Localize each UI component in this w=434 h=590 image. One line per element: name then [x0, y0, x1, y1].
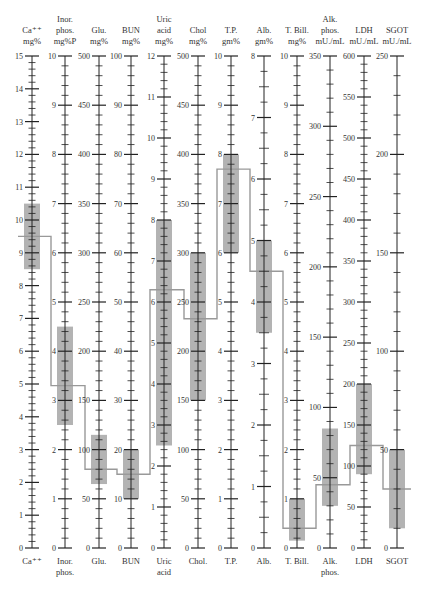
- tick-label: 100: [343, 462, 355, 471]
- axis-header-phos: mg%P: [54, 36, 77, 46]
- tick-label: 0: [384, 544, 388, 553]
- tick-label: 400: [78, 150, 90, 159]
- tick-label: 3: [19, 446, 23, 455]
- axis-header-chol: mg%: [189, 36, 207, 46]
- axis-header-alk: Alk.: [323, 14, 338, 24]
- axis-header-ldh: LDH: [355, 25, 372, 35]
- tick-label: 9: [151, 175, 155, 184]
- tick-label: 400: [343, 216, 355, 225]
- tick-label: 3: [52, 396, 56, 405]
- tick-label: 100: [376, 347, 388, 356]
- axis-header-phos: phos.: [56, 25, 74, 35]
- tick-label: 13: [15, 118, 23, 127]
- tick-label: 8: [251, 52, 255, 61]
- tick-label: 200: [376, 150, 388, 159]
- tick-label: 0: [151, 544, 155, 553]
- tick-label: 2: [151, 462, 155, 471]
- axis-header-glu: Glu.: [92, 25, 107, 35]
- tick-label: 1: [218, 495, 222, 504]
- tick-label: 14: [15, 85, 23, 94]
- tick-label: 8: [284, 150, 288, 159]
- tick-label: 4: [52, 347, 56, 356]
- tick-label: 6: [284, 249, 288, 258]
- tick-label: 350: [309, 52, 321, 61]
- tick-label: 500: [177, 52, 189, 61]
- tick-label: 7: [218, 200, 222, 209]
- tick-label: 350: [177, 200, 189, 209]
- axis-header-tp: gm%: [222, 36, 240, 46]
- tick-label: 80: [114, 150, 122, 159]
- tick-label: 4: [284, 347, 288, 356]
- tick-label: 30: [114, 396, 122, 405]
- tick-label: 50: [82, 495, 90, 504]
- tick-label: 3: [218, 396, 222, 405]
- tick-label: 0: [317, 544, 321, 553]
- axis-header-glu: mg%: [90, 36, 108, 46]
- tick-label: 150: [343, 421, 355, 430]
- tick-label: 150: [309, 333, 321, 342]
- tick-label: 5: [19, 380, 23, 389]
- tick-label: 9: [218, 101, 222, 110]
- axis-header-ca: mg%: [23, 36, 41, 46]
- axis-footer-tp: T.P.: [225, 556, 238, 566]
- axis-header-bun: BUN: [122, 25, 140, 35]
- tick-label: 7: [284, 200, 288, 209]
- tick-label: 3: [251, 360, 255, 369]
- tick-label: 200: [78, 347, 90, 356]
- axis-footer-uric: Uric: [156, 556, 171, 566]
- tick-label: 5: [251, 237, 255, 246]
- tick-label: 200: [309, 263, 321, 272]
- tick-label: 300: [309, 122, 321, 131]
- tick-label: 7: [52, 200, 56, 209]
- tick-label: 0: [52, 544, 56, 553]
- axis-header-tbil: mg%: [288, 36, 306, 46]
- tick-label: 550: [343, 93, 355, 102]
- tick-label: 150: [78, 396, 90, 405]
- tick-label: 7: [151, 257, 155, 266]
- tick-label: 50: [114, 298, 122, 307]
- axis-footer-uric: acid: [157, 567, 172, 577]
- tick-label: 0: [86, 544, 90, 553]
- axis-header-alk: phos.: [321, 25, 339, 35]
- axis-footer-alk: Alk.: [323, 556, 338, 566]
- tick-label: 2: [52, 446, 56, 455]
- axis-header-bun: mg%: [122, 36, 140, 46]
- tick-label: 300: [177, 249, 189, 258]
- axis-footer-glu: Glu.: [92, 556, 107, 566]
- tick-label: 90: [114, 101, 122, 110]
- tick-label: 100: [110, 52, 122, 61]
- tick-label: 5: [284, 298, 288, 307]
- tick-label: 1: [52, 495, 56, 504]
- tick-label: 150: [177, 396, 189, 405]
- tick-label: 12: [147, 52, 155, 61]
- tick-label: 450: [343, 175, 355, 184]
- tick-label: 0: [351, 544, 355, 553]
- axis-footer-phos: phos.: [56, 567, 74, 577]
- axis-header-ca: Ca⁺⁺: [22, 25, 41, 35]
- axis-footers: Ca⁺⁺Inor.phos.Glu.BUNUricacidChol.T.P.Al…: [22, 556, 409, 577]
- tick-label: 450: [78, 101, 90, 110]
- axis-footer-alk: phos.: [321, 567, 339, 577]
- tick-label: 12: [15, 150, 23, 159]
- tick-label: 9: [19, 249, 23, 258]
- tick-label: 9: [52, 101, 56, 110]
- axis-header-uric: acid: [157, 25, 172, 35]
- tick-label: 0: [19, 544, 23, 553]
- axis-header-tbil: T. Bill.: [285, 25, 309, 35]
- tick-label: 15: [15, 52, 23, 61]
- tick-label: 11: [15, 183, 23, 192]
- tick-label: 250: [78, 298, 90, 307]
- axis-headers: Ca⁺⁺mg%Inor.phos.mg%PGlu.mg%BUNmg%Uricac…: [22, 14, 411, 46]
- tick-label: 8: [19, 282, 23, 291]
- tick-label: 2: [19, 478, 23, 487]
- tick-label: 1: [19, 511, 23, 520]
- tick-label: 250: [376, 52, 388, 61]
- tick-label: 0: [284, 544, 288, 553]
- tick-label: 50: [347, 503, 355, 512]
- tick-label: 10: [48, 52, 56, 61]
- tick-label: 5: [52, 298, 56, 307]
- tick-label: 250: [309, 193, 321, 202]
- axis-header-alb: gm%: [255, 36, 273, 46]
- tick-label: 7: [251, 114, 255, 123]
- axis-tp: 012345678910: [214, 52, 238, 553]
